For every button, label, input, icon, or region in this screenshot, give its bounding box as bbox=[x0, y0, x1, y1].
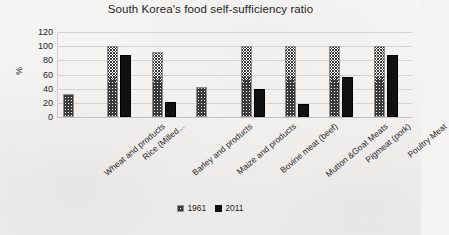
y-axis-tick-label: 100 bbox=[9, 42, 53, 51]
y-axis-title: % bbox=[14, 67, 24, 75]
bar-group bbox=[146, 32, 190, 117]
bar-1961 bbox=[196, 87, 207, 117]
chart-title: South Korea's food self-sufficiency rati… bbox=[0, 3, 421, 15]
y-axis-tick-label: 40 bbox=[9, 85, 53, 94]
x-axis-category-labels: Wheat and productsRice (Milled...Barley … bbox=[57, 118, 412, 198]
plot-area bbox=[57, 32, 412, 117]
bar-1961 bbox=[107, 46, 118, 117]
bar-1961 bbox=[374, 46, 385, 117]
bar-2011 bbox=[342, 77, 353, 117]
chart-legend: 19612011 bbox=[0, 203, 421, 213]
bar-1961 bbox=[152, 52, 163, 117]
bar-group bbox=[57, 32, 101, 117]
bar-2011 bbox=[120, 55, 131, 117]
legend-label: 2011 bbox=[225, 203, 243, 213]
bar-group bbox=[235, 32, 279, 117]
bar-group bbox=[368, 32, 412, 117]
bar-group bbox=[190, 32, 234, 117]
legend-item[interactable]: 2011 bbox=[215, 203, 243, 213]
y-axis-tick-label: 80 bbox=[9, 56, 53, 65]
bar-group bbox=[323, 32, 367, 117]
bar-1961 bbox=[241, 46, 252, 117]
bar-1961 bbox=[329, 46, 340, 117]
bar-group bbox=[101, 32, 145, 117]
bar-2011 bbox=[387, 55, 398, 117]
legend-label: 1961 bbox=[187, 203, 206, 213]
y-axis-tick-label: 0 bbox=[9, 113, 53, 122]
bar-1961 bbox=[285, 46, 296, 117]
bar-1961 bbox=[63, 94, 74, 117]
legend-swatch-icon bbox=[215, 205, 222, 212]
y-axis-tick-label: 20 bbox=[9, 99, 53, 108]
legend-swatch-icon bbox=[177, 205, 184, 212]
legend-item[interactable]: 1961 bbox=[177, 203, 206, 213]
bar-2011 bbox=[165, 102, 176, 117]
bar-2011 bbox=[298, 104, 309, 117]
y-axis-tick-labels: 120100806040200 bbox=[8, 0, 53, 235]
bar-group bbox=[279, 32, 323, 117]
bar-2011 bbox=[254, 89, 265, 117]
y-axis-tick-label: 120 bbox=[9, 28, 53, 37]
